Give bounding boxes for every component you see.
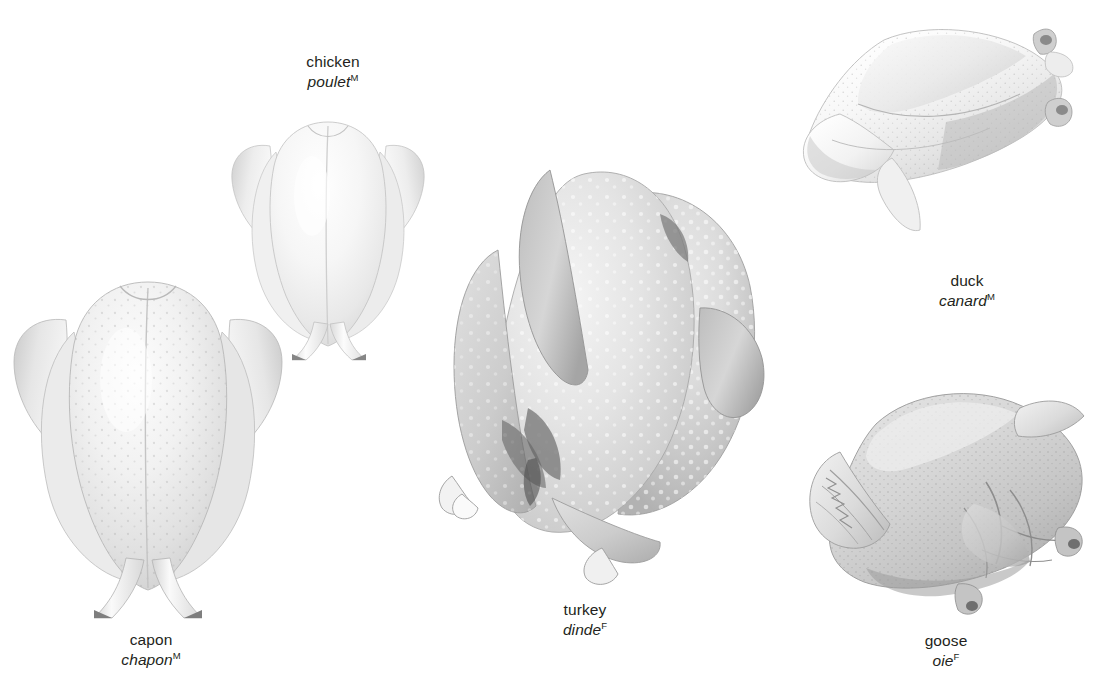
goose-name-en: goose [925,632,968,651]
capon-gender-mark: M [173,650,181,661]
capon-name-fr: chaponM [121,650,180,670]
goose-gender-mark: F [954,651,960,662]
label-chicken: chicken pouletM [306,53,359,92]
chicken-name-en: chicken [306,53,359,72]
capon-name-en: capon [121,631,180,650]
label-goose: goose oieF [925,632,968,671]
label-capon: capon chaponM [121,631,180,670]
chicken-gender-mark: M [350,72,358,83]
turkey-illustration [432,158,772,590]
goose-illustration [806,378,1096,626]
duck-gender-mark: M [987,291,995,302]
duck-illustration [796,18,1076,252]
duck-name-en: duck [939,272,995,291]
turkey-name-en: turkey [563,601,607,620]
label-turkey: turkey dindeF [563,601,607,640]
duck-name-fr: canardM [939,291,995,311]
chicken-name-fr: pouletM [306,72,359,92]
chicken-illustration [228,108,428,360]
goose-name-fr: oieF [925,651,968,671]
turkey-name-fr: dindeF [563,620,607,640]
poultry-illustration-plate: capon chaponM chicken pouletM turkey din… [0,0,1112,697]
turkey-gender-mark: F [601,620,607,631]
label-duck: duck canardM [939,272,995,311]
